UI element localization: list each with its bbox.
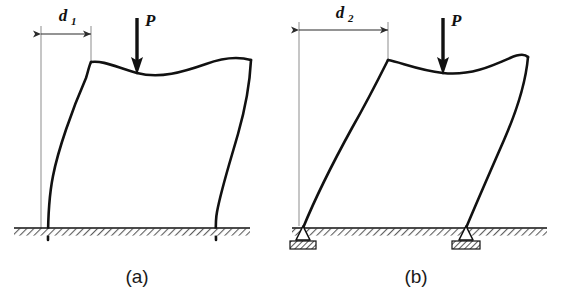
figure-root: d 1 P (a) xyxy=(0,0,573,295)
panel-b-dimension-subscript: 2 xyxy=(347,12,354,24)
panel-a-load-label: P xyxy=(144,11,156,30)
figure-background xyxy=(0,0,573,295)
panel-b-load-label: P xyxy=(450,11,462,30)
panel-b-ground-hatch xyxy=(292,229,547,236)
panel-a-ground-hatch xyxy=(14,229,250,236)
panel-a-dimension-subscript: 1 xyxy=(71,15,77,27)
portal-frame-sway-figure: d 1 P (a) xyxy=(0,0,573,295)
panel-b-caption: (b) xyxy=(404,266,427,287)
panel-b-dimension-label: d xyxy=(336,3,345,22)
panel-a-caption: (a) xyxy=(125,266,148,287)
panel-a-dimension-label: d xyxy=(59,6,68,25)
panel-b-right-base-plate xyxy=(452,241,480,249)
panel-b-left-base-plate xyxy=(290,241,316,249)
